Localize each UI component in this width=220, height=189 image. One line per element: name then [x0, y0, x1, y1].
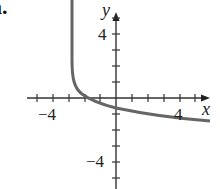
y-tick-label-4: 4	[98, 25, 107, 44]
graph: −4 4 4 −4 x y	[0, 0, 220, 189]
x-axis	[27, 94, 210, 102]
y-tick-label-neg4: −4	[86, 152, 105, 171]
y-axis-label: y	[100, 0, 110, 20]
y-arrow-icon	[113, 12, 120, 21]
x-tick-label-neg4: −4	[38, 105, 57, 124]
x-tick-label-4: 4	[174, 105, 183, 124]
x-axis-label: x	[201, 99, 210, 119]
y-axis	[112, 12, 120, 189]
function-curve	[72, 0, 210, 121]
